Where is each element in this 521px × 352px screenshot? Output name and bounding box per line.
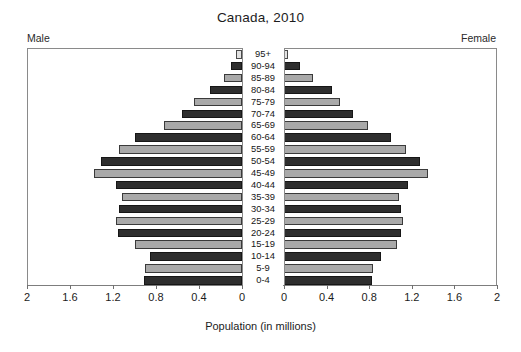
bar-row-75-79 [28,97,242,109]
left-bar-20-24 [118,229,242,238]
x-tick [327,285,328,289]
x-tick [199,285,200,289]
left-bar-60-64 [135,133,243,142]
bar-row-60-64 [284,132,496,144]
left-bar-55-59 [119,145,242,154]
age-label-30-34: 30-34 [242,203,284,215]
right-bar-80-84 [284,86,332,95]
bar-row-5-9 [284,263,496,275]
bar-row-35-39 [28,192,242,204]
x-tick-label-1p2: 1.2 [397,291,427,303]
female-x-axis-line [283,285,497,286]
right-bar-30-34 [284,205,401,214]
bar-row-55-59 [284,144,496,156]
left-bar-90-94 [231,62,242,71]
right-bar-40-44 [284,181,408,190]
right-bar-60-64 [284,133,391,142]
right-bar-75-79 [284,98,340,107]
bar-row-95plus [284,49,496,61]
x-tick [454,285,455,289]
bar-row-30-34 [28,204,242,216]
bar-row-20-24 [284,228,496,240]
age-label-90-94: 90-94 [242,60,284,72]
right-bar-85-89 [284,74,313,83]
right-bar-50-54 [284,157,420,166]
male-side-label: Male [27,32,50,44]
bar-row-65-69 [284,120,496,132]
x-tick-label-1p2: 1.2 [98,291,128,303]
bar-row-55-59 [28,144,242,156]
right-bar-70-74 [284,110,353,119]
x-tick-label-1p6: 1.6 [439,291,469,303]
bar-row-50-54 [284,156,496,168]
age-label-45-49: 45-49 [242,167,284,179]
x-tick-label-2: 2 [482,291,512,303]
left-bar-70-74 [182,110,242,119]
right-bar-90-94 [284,62,300,71]
x-tick-label-0p8: 0.8 [141,291,171,303]
age-label-35-39: 35-39 [242,191,284,203]
bar-row-15-19 [28,239,242,251]
age-label-15-19: 15-19 [242,238,284,250]
x-tick [412,285,413,289]
x-tick-label-0p4: 0.4 [184,291,214,303]
bar-row-50-54 [28,156,242,168]
left-bar-5-9 [145,264,242,273]
left-bar-85-89 [224,74,242,83]
female-side-label: Female [461,32,496,44]
age-label-5-9: 5-9 [242,262,284,274]
left-bar-30-34 [119,205,242,214]
female-bar-rows [284,49,496,285]
left-bar-50-54 [101,157,242,166]
bar-row-70-74 [284,109,496,121]
chart-title: Canada, 2010 [0,10,521,25]
left-bar-15-19 [135,240,243,249]
right-bar-10-14 [284,252,381,261]
right-bar-55-59 [284,145,406,154]
age-label-60-64: 60-64 [242,131,284,143]
bar-row-40-44 [284,180,496,192]
x-tick-label-0p4: 0.4 [312,291,342,303]
bar-row-10-14 [28,251,242,263]
age-label-75-79: 75-79 [242,96,284,108]
right-bar-0-4 [284,276,372,285]
bar-row-35-39 [284,192,496,204]
right-bar-15-19 [284,240,397,249]
x-tick-label-2: 2 [12,291,42,303]
age-group-labels: 95+90-9485-8980-8475-7970-7465-6960-6455… [242,48,284,286]
bar-row-85-89 [284,73,496,85]
age-label-70-74: 70-74 [242,108,284,120]
bar-row-80-84 [284,85,496,97]
bar-row-95plus [28,49,242,61]
right-bar-35-39 [284,193,399,202]
right-bar-65-69 [284,121,368,130]
right-bar-45-49 [284,169,428,178]
bar-row-15-19 [284,239,496,251]
bar-row-90-94 [28,61,242,73]
x-tick [497,285,498,289]
bar-row-30-34 [284,204,496,216]
x-tick [242,285,243,289]
male-bar-rows [28,49,242,285]
age-label-95plus: 95+ [242,48,284,60]
bar-row-75-79 [284,97,496,109]
right-bar-5-9 [284,264,373,273]
age-label-0-4: 0-4 [242,274,284,286]
x-tick-label-0: 0 [227,291,257,303]
x-tick-label-1p6: 1.6 [55,291,85,303]
left-bar-10-14 [150,252,242,261]
age-label-20-24: 20-24 [242,227,284,239]
left-bar-35-39 [122,193,242,202]
x-tick-label-0: 0 [269,291,299,303]
left-bar-0-4 [144,276,242,285]
male-x-axis-line [27,285,243,286]
bar-row-65-69 [28,120,242,132]
left-bar-80-84 [210,86,242,95]
age-label-40-44: 40-44 [242,179,284,191]
age-label-50-54: 50-54 [242,155,284,167]
left-bar-45-49 [94,169,242,178]
left-bar-75-79 [194,98,242,107]
bar-row-85-89 [28,73,242,85]
x-axis-title: Population (in millions) [0,320,521,332]
bar-row-5-9 [28,263,242,275]
